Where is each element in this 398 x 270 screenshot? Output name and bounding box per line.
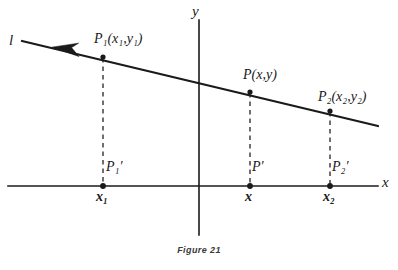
point-p1-prime-label: P₁′ <box>106 160 122 174</box>
x2-tick-label: x₂ <box>323 190 335 204</box>
point-p2 <box>327 108 332 113</box>
x-tick-label: x <box>245 190 252 204</box>
x1-tick-label: x₁ <box>96 190 108 204</box>
point-p-prime-label: P′ <box>252 160 264 174</box>
line-l-label: l <box>9 33 13 48</box>
point-p1-label: P₁(x₁,y₁) <box>94 32 142 46</box>
point-p2-label: P₂(x₂,y₂) <box>318 90 366 104</box>
diagram-svg <box>0 0 398 270</box>
point-p-label: P(x,y) <box>243 68 277 82</box>
x-axis-label: x <box>382 175 389 190</box>
figure-canvas: y x l P₁(x₁,y₁) P(x,y) P₂(x₂,y₂) P₁′ P′ … <box>0 0 398 270</box>
point-p1 <box>100 54 105 59</box>
y-axis-label: y <box>192 4 199 19</box>
point-p <box>247 89 252 94</box>
figure-caption: Figure 21 <box>0 245 398 255</box>
point-p2-prime-label: P₂′ <box>332 160 348 174</box>
